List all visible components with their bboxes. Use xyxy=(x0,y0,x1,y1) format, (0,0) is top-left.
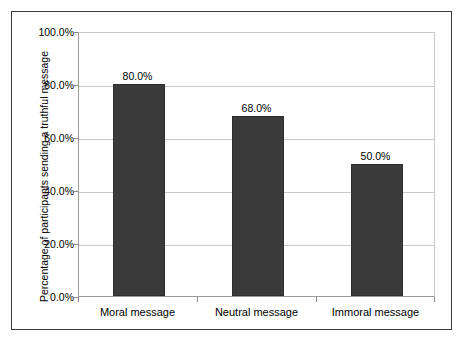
chart-frame: Percentage of participants sending a tru… xyxy=(11,11,452,330)
x-axis-tick-mark xyxy=(197,297,198,302)
x-axis-category-label: Neutral message xyxy=(215,306,298,318)
x-axis-category-label: Moral message xyxy=(100,306,175,318)
x-axis-tick-marks xyxy=(78,297,436,303)
bar xyxy=(351,164,403,297)
bar xyxy=(113,84,165,296)
x-axis-tick-mark xyxy=(316,297,317,302)
y-axis-tick-marks xyxy=(12,32,82,297)
plot-area xyxy=(78,32,435,297)
x-axis-category-label: Immoral message xyxy=(332,306,419,318)
x-axis-category-labels: Moral messageNeutral messageImmoral mess… xyxy=(78,306,436,322)
x-axis-tick-mark xyxy=(78,297,79,302)
x-axis-tick-mark xyxy=(434,297,435,302)
bar xyxy=(232,116,284,296)
